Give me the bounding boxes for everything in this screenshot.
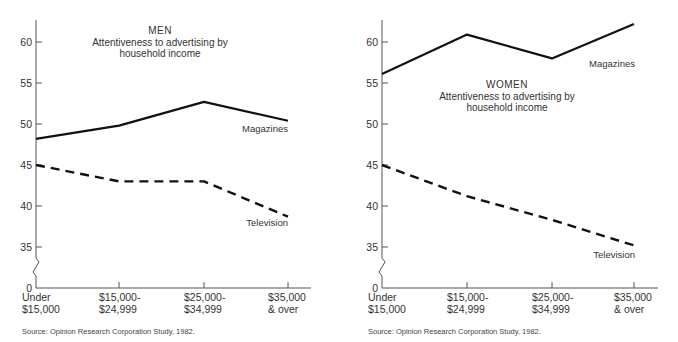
- y-axis-line: [33, 20, 39, 288]
- women-chart-panel: 0354045505560 Under$15,000$15,000-$24,99…: [366, 20, 658, 336]
- y-tick-label: 55: [20, 77, 32, 89]
- x-category-label: $15,000-: [99, 291, 141, 303]
- y-tick-label: 60: [20, 36, 32, 48]
- y-axis-line: [379, 20, 385, 288]
- series-line-television: [36, 165, 288, 217]
- x-category-label: $24,999: [99, 303, 137, 315]
- attentiveness-charts: 0354045505560 Under$15,000$15,000-$24,99…: [0, 0, 678, 342]
- chart-title: WOMEN: [486, 79, 528, 90]
- series-lines: [36, 102, 288, 217]
- y-tick-label: 40: [20, 200, 32, 212]
- chart-subtitle-line2: household income: [119, 48, 201, 59]
- y-tick-label: 45: [366, 159, 378, 171]
- x-category-label: $25,000-: [184, 291, 226, 303]
- x-axis: Under$15,000$15,000-$24,999$25,000-$34,9…: [368, 282, 658, 315]
- x-category-label: Under: [368, 291, 397, 303]
- y-tick-label: 50: [366, 118, 378, 130]
- y-tick-label: 35: [366, 241, 378, 253]
- series-label-magazines: Magazines: [242, 123, 288, 134]
- y-axis: 0354045505560: [366, 20, 388, 294]
- y-tick-label: 45: [20, 159, 32, 171]
- x-axis: Under$15,000$15,000-$24,999$25,000-$34,9…: [22, 282, 311, 315]
- chart-subtitle-line1: Attentiveness to advertising by: [92, 37, 228, 48]
- x-category-label: $35,000: [614, 291, 652, 303]
- x-category-label: $35,000: [268, 291, 306, 303]
- x-category-label: $25,000-: [532, 291, 574, 303]
- y-axis: 0354045505560: [20, 20, 42, 294]
- source-note: Source: Opinion Research Corporation Stu…: [368, 327, 541, 336]
- y-tick-label: 60: [366, 36, 378, 48]
- x-category-label: $15,000: [22, 303, 60, 315]
- x-category-label: $34,999: [532, 303, 570, 315]
- x-category-label: $34,999: [184, 303, 222, 315]
- x-category-label: $24,999: [447, 303, 485, 315]
- series-line-television: [382, 165, 634, 245]
- x-category-label: $15,000: [368, 303, 406, 315]
- y-tick-label: 55: [366, 77, 378, 89]
- chart-subtitle-line2: household income: [466, 102, 548, 113]
- y-tick-label: 50: [20, 118, 32, 130]
- x-category-label: $15,000-: [447, 291, 489, 303]
- chart-title: MEN: [148, 25, 172, 36]
- y-tick-label: 40: [366, 200, 378, 212]
- x-category-label: & over: [268, 303, 299, 315]
- source-note: Source: Opinion Research Corporation Stu…: [22, 327, 195, 336]
- x-category-label: & over: [614, 303, 645, 315]
- y-tick-label: 35: [20, 241, 32, 253]
- series-label-television: Television: [246, 217, 288, 228]
- series-label-magazines: Magazines: [589, 58, 635, 69]
- chart-subtitle-line1: Attentiveness to advertising by: [439, 91, 575, 102]
- series-label-television: Television: [593, 249, 635, 260]
- x-category-label: Under: [22, 291, 51, 303]
- men-chart-panel: 0354045505560 Under$15,000$15,000-$24,99…: [20, 20, 311, 336]
